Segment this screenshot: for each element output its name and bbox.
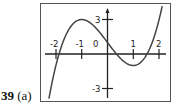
y-tick-label: -3 xyxy=(92,84,100,94)
x-tick-label: -2 xyxy=(50,39,58,49)
y-tick-label: 3 xyxy=(95,15,100,25)
cubic-graph: -2 -1 0 1 2 3 -3 xyxy=(0,0,178,109)
x-tick-label: 1 xyxy=(131,39,136,49)
x-tick-label: -1 xyxy=(76,39,84,49)
y-axis-arrow-icon xyxy=(106,8,110,13)
x-tick-label: 2 xyxy=(156,39,161,49)
x-tick-label: 0 xyxy=(93,39,98,49)
